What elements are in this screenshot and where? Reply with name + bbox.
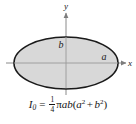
moment-of-inertia-formula: I0=14πab(a2+b2) [0, 96, 136, 113]
formula-plus: + [87, 98, 93, 110]
formula-term1-exponent: 2 [82, 98, 86, 106]
formula-equals: = [39, 98, 45, 110]
fraction-numerator: 1 [49, 96, 55, 104]
formula-close-paren: ) [104, 98, 108, 110]
semi-major-axis-label: a [102, 51, 107, 62]
formula-fraction: 14 [49, 96, 55, 113]
fraction-denominator: 4 [49, 106, 55, 114]
semi-minor-axis-label: b [59, 39, 64, 50]
figure-container: y x b a I0=14πab(a2+b2) [0, 0, 136, 124]
x-axis-label: x [127, 58, 132, 68]
formula-symbol-subscript: 0 [32, 103, 36, 112]
y-axis-label: y [63, 1, 68, 11]
